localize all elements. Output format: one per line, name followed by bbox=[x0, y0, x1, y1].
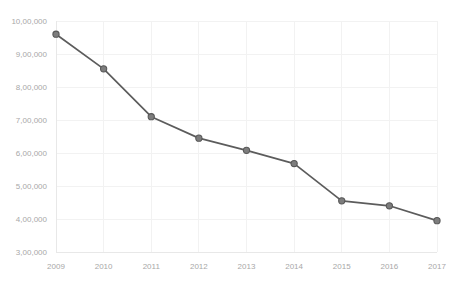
y-tick-label: 4,00,000 bbox=[16, 215, 48, 224]
data-point-marker bbox=[101, 66, 107, 72]
data-point-marker bbox=[196, 135, 202, 141]
y-tick-label: 5,00,000 bbox=[16, 182, 48, 191]
y-tick-label: 10,00,000 bbox=[11, 17, 47, 26]
vertical-gridlines bbox=[56, 21, 437, 252]
x-tick-label: 2009 bbox=[47, 262, 65, 271]
data-point-marker bbox=[339, 198, 345, 204]
x-tick-label: 2010 bbox=[95, 262, 113, 271]
chart-canvas: 3,00,0004,00,0005,00,0006,00,0007,00,000… bbox=[0, 0, 451, 291]
data-point-marker bbox=[243, 147, 249, 153]
x-tick-label: 2011 bbox=[143, 262, 161, 271]
y-axis-tick-labels: 3,00,0004,00,0005,00,0006,00,0007,00,000… bbox=[11, 17, 47, 257]
line-chart: 3,00,0004,00,0005,00,0006,00,0007,00,000… bbox=[0, 0, 451, 291]
y-tick-label: 8,00,000 bbox=[16, 83, 48, 92]
x-tick-label: 2017 bbox=[428, 262, 446, 271]
y-tick-label: 6,00,000 bbox=[16, 149, 48, 158]
y-tick-label: 3,00,000 bbox=[16, 248, 48, 257]
x-tick-label: 2015 bbox=[333, 262, 351, 271]
data-point-marker bbox=[434, 218, 440, 224]
x-axis-tick-labels: 200920102011201220132014201520162017 bbox=[47, 262, 446, 271]
x-tick-label: 2012 bbox=[190, 262, 208, 271]
y-tick-label: 9,00,000 bbox=[16, 50, 48, 59]
data-point-marker bbox=[386, 203, 392, 209]
y-tick-label: 7,00,000 bbox=[16, 116, 48, 125]
data-point-marker bbox=[291, 160, 297, 166]
x-tick-label: 2014 bbox=[285, 262, 303, 271]
x-tick-label: 2016 bbox=[380, 262, 398, 271]
data-point-marker bbox=[53, 31, 59, 37]
data-point-marker bbox=[148, 114, 154, 120]
x-tick-label: 2013 bbox=[238, 262, 256, 271]
